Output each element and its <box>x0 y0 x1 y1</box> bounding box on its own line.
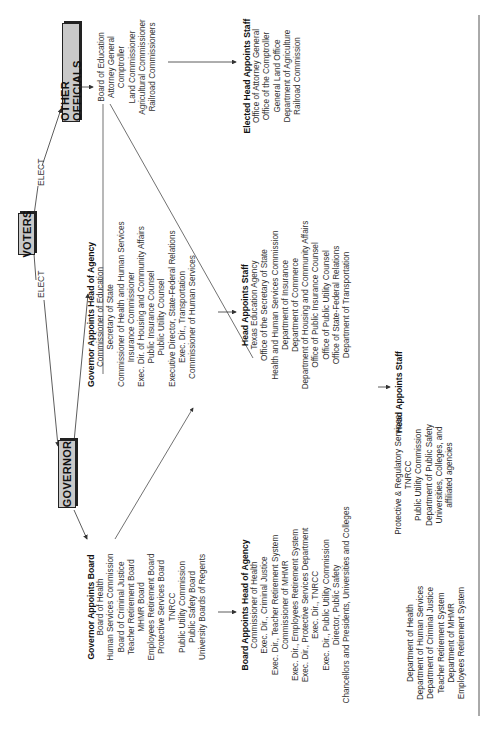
block-title: Head Appoints Staff <box>240 220 250 390</box>
list-item: TNRCC <box>168 542 178 672</box>
list-item: Insurance Commissioner <box>127 247 137 387</box>
other-officials-list: Board of Education Attorney General Comp… <box>97 12 158 122</box>
list-item: Railroad Commission <box>293 16 303 136</box>
list-item: Human Services Commission <box>106 542 116 672</box>
head-appoints-staff-board-list: Department of Health Department of Human… <box>406 400 467 718</box>
list-item: Teacher Retirement System <box>437 568 447 718</box>
staff-column-1: Department of Health Department of Human… <box>406 568 467 718</box>
list-item: University Boards of Regents <box>198 542 208 672</box>
list-item: affiliated agencies <box>445 400 455 550</box>
list-item: Chancellors and Presidents, Universities… <box>342 490 352 720</box>
list-item: Attorney General <box>107 12 117 122</box>
list-item: Department of Commerce <box>291 220 301 390</box>
list-item: MHMR Board <box>137 542 147 672</box>
list-item: Department of Criminal Justice <box>426 568 436 718</box>
list-item: Protective Services Board <box>157 542 167 672</box>
list-item: Department of Insurance <box>281 220 291 390</box>
list-item: Railroad Commissioners <box>148 12 158 122</box>
list-item: Exec. Dir., TNRCC <box>311 490 321 720</box>
elected-head-appoints-staff-block: Elected Head Appoints Staff Office of At… <box>242 16 303 136</box>
list-item: Public Utility Commission <box>414 400 424 550</box>
elect-other-label: ELECT <box>36 159 46 186</box>
list-item: Office of the Secretary of State <box>260 220 270 390</box>
voters-node: VOTERS <box>18 213 35 255</box>
list-item: Office of Attorney General <box>252 16 262 136</box>
list-item: Office of the Comptroller <box>262 16 272 136</box>
list-item: Department of Housing and Community Affa… <box>301 220 311 390</box>
list-item: Comptroller <box>117 12 127 122</box>
list-item: Board of Criminal Justice <box>117 542 127 672</box>
list-item: Universities, Colleges, and <box>435 400 445 550</box>
board-head-of-agency-block: Board Appoints Head of Agency Commission… <box>240 490 352 720</box>
other-officials-node: OTHER OFFICIALS <box>62 23 80 122</box>
list-item: Public Utility Commission <box>178 542 188 672</box>
list-item: Commissioner of Education <box>96 247 106 387</box>
list-item: Exec. Dir., Transportation <box>178 247 188 387</box>
list-item: TNRCC <box>404 400 414 550</box>
head-appoints-staff-gov-block: Head Appoints Staff Texas Education Agen… <box>240 220 352 390</box>
list-item: Exec. Dir., Teacher Retirement System <box>271 490 281 720</box>
list-item: Director, Public Safety <box>332 490 342 720</box>
staff-column-2: Protective & Regulatory Services TNRCC P… <box>394 400 467 550</box>
block-title: Board Appoints Head of Agency <box>240 490 250 720</box>
list-item: Department of Public Safety <box>425 400 435 550</box>
list-item: General Land Office <box>273 16 283 136</box>
list-item: Exec. Dir., Employees Retirement System <box>291 490 301 720</box>
list-item: Protective & Regulatory Services <box>394 400 404 550</box>
list-item: Commissioner of Health <box>250 490 260 720</box>
list-item: Public Insurance Counsel <box>147 247 157 387</box>
list-item: Secretary of State <box>106 247 116 387</box>
block-title: Governor Appoints Board <box>86 542 96 672</box>
list-item: Exec. Dir. of Housing and Community Affa… <box>137 247 147 387</box>
list-item: Employees Retirement Board <box>147 542 157 672</box>
list-item: Commissioner of MHMR <box>281 490 291 720</box>
governor-head-of-agency-block: Governor Appoints Head of Agency Commiss… <box>86 247 198 387</box>
list-item: Department of Transportation <box>342 220 352 390</box>
list-item: Department of Agriculture <box>283 16 293 136</box>
list-item: Office of State-Federal Relations <box>332 220 342 390</box>
list-item: Public Safety Board <box>188 542 198 672</box>
elect-governor-label: ELECT <box>36 271 46 298</box>
list-item: Commissioner of Human Services <box>188 247 198 387</box>
list-item: Agricultural Commissioner <box>138 12 148 122</box>
list-item: Commissioner of Health and Human Service… <box>117 247 127 387</box>
list-item: Office of Public Utility Counsel <box>322 220 332 390</box>
governor-appoints-board-block: Governor Appoints Board Board of Health … <box>86 542 208 672</box>
list-item: Executive Director, State-Federal Relati… <box>168 247 178 387</box>
list-item: Exec. Dir., Protective Services Departme… <box>301 490 311 720</box>
list-item: Texas Education Agency <box>250 220 260 390</box>
list-item: Exec. Dir., Public Utility Commission <box>322 490 332 720</box>
list-item: Employees Retirement System <box>457 568 467 718</box>
list-item: Land Commissioner <box>128 12 138 122</box>
block-title: Governor Appoints Head of Agency <box>86 247 96 387</box>
list-item: Board of Education <box>97 12 107 122</box>
list-item: Department of Human Services <box>416 568 426 718</box>
list-item: Department of MHMR <box>447 568 457 718</box>
list-item: Public Utility Counsel <box>157 247 167 387</box>
list-item: Board of Health <box>96 542 106 672</box>
list-item: Teacher Retirement Board <box>127 542 137 672</box>
org-diagram: VOTERS GOVERNOR OTHER OFFICIALS ELECT EL… <box>0 0 488 732</box>
list-item: Office of Public Insurance Counsel <box>311 220 321 390</box>
document-page: VOTERS GOVERNOR OTHER OFFICIALS ELECT EL… <box>0 0 488 732</box>
list-item: Department of Health <box>406 568 416 718</box>
governor-node: GOVERNOR <box>58 440 76 508</box>
block-title: Elected Head Appoints Staff <box>242 16 252 136</box>
list-item: Exec. Dir., Criminal Justice <box>260 490 270 720</box>
list-item: Health and Human Services Commission <box>271 220 281 390</box>
